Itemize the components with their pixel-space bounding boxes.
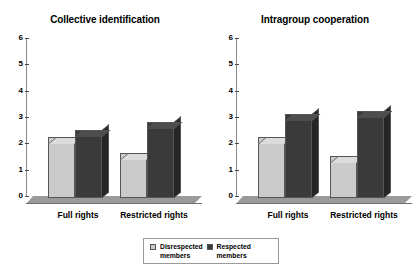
bar-left-full-rights-disrespected [48, 137, 75, 198]
y-tick-4 [25, 91, 29, 92]
figure: Collective identification 6 5 4 3 2 1 0 [0, 0, 420, 277]
plot-area-left: 6 5 4 3 2 1 0 [26, 30, 202, 206]
y-tick-6 [25, 38, 29, 39]
y-tick-label-4: 4 [19, 87, 23, 95]
y-tick-3 [25, 117, 29, 118]
legend-label-disrespected: Disrespected members [160, 242, 207, 260]
bar-face [75, 130, 102, 198]
y-tick-1 [235, 170, 239, 171]
legend-swatch-icon-respected [207, 244, 213, 250]
bar-face [147, 122, 174, 198]
legend-swatch-icon-disrespected [150, 244, 156, 250]
x-label-left-full-rights: Full rights [57, 210, 98, 220]
y-tick-label-6: 6 [19, 34, 23, 42]
y-tick-label-2: 2 [19, 139, 23, 147]
y-tick-label-5: 5 [19, 60, 23, 68]
chart-legend: Disrespected members Respected members [143, 238, 279, 264]
bar-right-restricted-rights-disrespected [330, 156, 357, 198]
y-tick-label-0: 0 [229, 192, 233, 200]
y-tick-label-1: 1 [19, 166, 23, 174]
chart-title-left: Collective identification [0, 14, 210, 25]
y-tick-label-2: 2 [229, 139, 233, 147]
bar-side [384, 105, 391, 198]
bar-left-restricted-rights-respected [147, 122, 174, 198]
bar-left-restricted-rights-disrespected [120, 153, 147, 198]
y-tick-3 [235, 117, 239, 118]
y-tick-label-4: 4 [229, 87, 233, 95]
y-tick-6 [235, 38, 239, 39]
y-tick-label-0: 0 [19, 192, 23, 200]
y-tick-label-3: 3 [19, 113, 23, 121]
y-tick-label-6: 6 [229, 34, 233, 42]
bar-right-full-rights-disrespected [258, 137, 285, 198]
chart-panel-intragroup-cooperation: Intragroup cooperation 6 5 4 3 2 1 0 [210, 0, 420, 220]
chart-panel-collective-identification: Collective identification 6 5 4 3 2 1 0 [0, 0, 210, 220]
bar-face [357, 111, 384, 198]
y-tick-2 [235, 143, 239, 144]
bar-side [312, 108, 319, 198]
bar-side [174, 116, 181, 198]
y-tick-2 [25, 143, 29, 144]
y-tick-label-1: 1 [229, 166, 233, 174]
x-label-right-restricted-rights: Restricted rights [330, 210, 398, 220]
x-label-right-full-rights: Full rights [267, 210, 308, 220]
bar-right-full-rights-respected [285, 114, 312, 198]
legend-item-respected: Respected members [207, 242, 273, 260]
y-tick-5 [25, 64, 29, 65]
bar-face [48, 137, 75, 198]
bar-left-full-rights-respected [75, 130, 102, 198]
bar-right-restricted-rights-respected [357, 111, 384, 198]
x-label-left-restricted-rights: Restricted rights [120, 210, 188, 220]
y-tick-5 [235, 64, 239, 65]
y-tick-label-5: 5 [229, 60, 233, 68]
bar-face [258, 137, 285, 198]
bar-face [285, 114, 312, 198]
plot-area-right: 6 5 4 3 2 1 0 [236, 30, 412, 206]
legend-label-respected: Respected members [217, 242, 273, 260]
x-axis-line [236, 203, 412, 204]
chart-title-right: Intragroup cooperation [210, 14, 420, 25]
legend-item-disrespected: Disrespected members [150, 242, 207, 260]
y-tick-1 [25, 170, 29, 171]
y-tick-4 [235, 91, 239, 92]
x-axis-line [26, 203, 202, 204]
y-tick-label-3: 3 [229, 113, 233, 121]
